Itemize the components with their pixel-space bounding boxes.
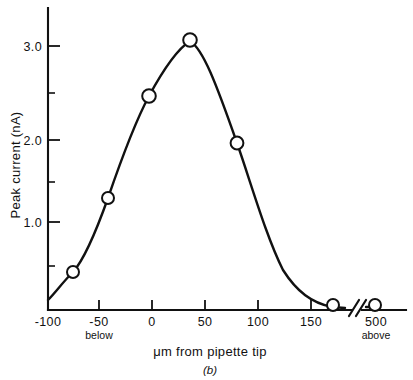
y-axis-title: Peak current (nA) <box>8 112 23 219</box>
panel-label: (b) <box>203 364 217 376</box>
data-point-marker <box>102 192 114 204</box>
data-point-marker <box>327 299 339 311</box>
chart-svg: 3.0 2.0 1.0 -100 -50 0 50 100 150 500 be… <box>0 0 413 380</box>
data-point-marker <box>183 33 197 47</box>
x-tick-label-150: 150 <box>300 315 322 329</box>
y-tick-label-2: 2.0 <box>23 134 42 148</box>
y-tick-label-3: 3.0 <box>23 40 42 54</box>
x-tick-label-100: 100 <box>247 315 269 329</box>
annotation-below: below <box>85 329 113 341</box>
data-point-marker <box>231 137 244 150</box>
x-tick-label-0: 0 <box>148 315 155 329</box>
x-axis-title: μm from pipette tip <box>153 344 267 359</box>
x-tick-label-neg100: -100 <box>35 315 62 329</box>
figure-panel-b: 3.0 2.0 1.0 -100 -50 0 50 100 150 500 be… <box>0 0 413 380</box>
annotation-above: above <box>362 329 391 341</box>
data-point-marker <box>67 266 79 278</box>
data-curve-left <box>48 41 345 308</box>
data-point-marker <box>369 299 381 311</box>
x-tick-label-50: 50 <box>198 315 213 329</box>
y-tick-label-1: 1.0 <box>23 216 42 230</box>
x-tick-label-500: 500 <box>365 315 387 329</box>
data-point-marker <box>142 89 156 103</box>
x-tick-label-neg50: -50 <box>89 315 108 329</box>
